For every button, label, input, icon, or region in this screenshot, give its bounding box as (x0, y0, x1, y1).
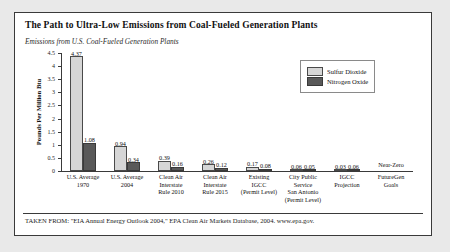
y-axis-tick-label: 0 (52, 168, 55, 174)
bar-value-label: 1.08 (84, 136, 95, 143)
bar-value-label: 0.34 (128, 156, 139, 163)
legend-swatch-sulfur-dioxide (307, 67, 323, 76)
chart-subtitle: Emissions from U.S. Coal-Fueled Generati… (25, 37, 179, 46)
y-axis-tick (58, 145, 61, 146)
x-axis-category-label: IGCC Projection (325, 173, 369, 188)
y-axis-tick-labels: 00.511.522.533.544.5 (15, 53, 55, 171)
y-axis-tick (58, 132, 61, 133)
bar-value-label: 0.26 (203, 158, 214, 165)
y-axis-tick-label: 2 (52, 116, 55, 122)
y-axis-tick-label: 3 (52, 89, 55, 95)
bar-nitrogen-oxide: 0.16 (171, 167, 184, 171)
bar-group: 0.390.16 (156, 161, 186, 171)
x-axis-category-label: U.S. Average 2004 (105, 173, 149, 188)
y-axis-tick-label: 4 (52, 63, 55, 69)
bar-nitrogen-oxide: 0.06 (347, 169, 360, 171)
y-axis-tick (58, 92, 61, 93)
bar-nitrogen-oxide: 0.05 (303, 169, 316, 171)
bar-value-label: 4.37 (71, 50, 82, 57)
legend-swatch-nitrogen-oxide (307, 77, 323, 86)
bar-value-label: 0.06 (348, 163, 359, 170)
bar-nitrogen-oxide: 0.08 (259, 169, 272, 171)
bar-sulfur-dioxide: 0.26 (202, 164, 215, 171)
y-axis-tick-label: 2.5 (48, 102, 56, 108)
bar-value-label: 0.06 (291, 163, 302, 170)
bar-group: 0.030.06 (332, 169, 362, 171)
x-axis-category-label: Clean Air Interstate Rule 2010 (149, 173, 193, 196)
x-axis-category-label: City Public Service San Antonio (Permit … (281, 173, 325, 203)
y-axis-tick (58, 171, 61, 172)
x-axis-line (61, 171, 413, 172)
bar-group: 0.060.05 (288, 169, 318, 171)
y-axis-tick (58, 66, 61, 67)
bar-sulfur-dioxide: 0.39 (158, 161, 171, 171)
bar-sulfur-dioxide: 0.03 (334, 169, 347, 171)
chart-card: The Path to Ultra-Low Emissions from Coa… (14, 12, 432, 236)
bar-value-label: 0.16 (172, 160, 183, 167)
bar-value-label: 0.08 (260, 162, 271, 169)
bar-value-label: 0.12 (216, 161, 227, 168)
y-axis-line (61, 53, 62, 171)
bar-group: 0.940.34 (112, 146, 142, 171)
y-axis-tick-label: 0.5 (48, 155, 56, 161)
bar-group: 0.170.08 (244, 167, 274, 171)
page-title: The Path to Ultra-Low Emissions from Coa… (25, 20, 317, 30)
bar-sulfur-dioxide: 4.37 (70, 56, 83, 171)
x-axis-category-label: FutureGen Goals (369, 173, 413, 188)
y-axis-tick-label: 1.5 (48, 129, 56, 135)
x-axis-category-label: U.S. Average 1970 (61, 173, 105, 188)
bar-value-label: 0.17 (247, 160, 258, 167)
bar-sulfur-dioxide: 0.94 (114, 146, 127, 171)
y-axis-tick (58, 119, 61, 120)
legend-item: Sulfur Dioxide (307, 67, 368, 76)
bar-value-label: 0.39 (159, 154, 170, 161)
source-note: TAKEN FROM: "EIA Annual Energy Outlook 2… (25, 217, 314, 224)
bar-nitrogen-oxide: 0.12 (215, 168, 228, 171)
legend-label-sulfur-dioxide: Sulfur Dioxide (327, 68, 366, 75)
y-axis-tick (58, 53, 61, 54)
y-axis-tick (58, 158, 61, 159)
bar-sulfur-dioxide: 0.06 (290, 169, 303, 171)
chart-legend: Sulfur Dioxide Nitrogen Oxide (300, 60, 375, 93)
bar-group: 4.371.08 (68, 56, 98, 171)
x-axis-category-label: Clean Air Interstate Rule 2015 (193, 173, 237, 196)
bar-nitrogen-oxide: 1.08 (83, 143, 96, 171)
bar-sulfur-dioxide: 0.17 (246, 167, 259, 171)
legend-label-nitrogen-oxide: Nitrogen Oxide (327, 78, 368, 85)
y-axis-tick-label: 1 (52, 142, 55, 148)
x-axis-category-label: Existing IGCC (Permit Level) (237, 173, 281, 196)
bar-value-label: 0.94 (115, 140, 126, 147)
y-axis-tick (58, 105, 61, 106)
y-axis-tick-label: 3.5 (48, 76, 56, 82)
footer-divider (23, 213, 423, 214)
y-axis-tick (58, 79, 61, 80)
legend-item: Nitrogen Oxide (307, 77, 368, 86)
bar-group: 0.260.12 (200, 164, 230, 171)
near-zero-annotation: Near-Zero (369, 161, 413, 168)
y-axis-tick-label: 4.5 (48, 50, 56, 56)
bar-nitrogen-oxide: 0.34 (127, 162, 140, 171)
bar-value-label: 0.03 (335, 163, 346, 170)
bar-value-label: 0.05 (304, 163, 315, 170)
